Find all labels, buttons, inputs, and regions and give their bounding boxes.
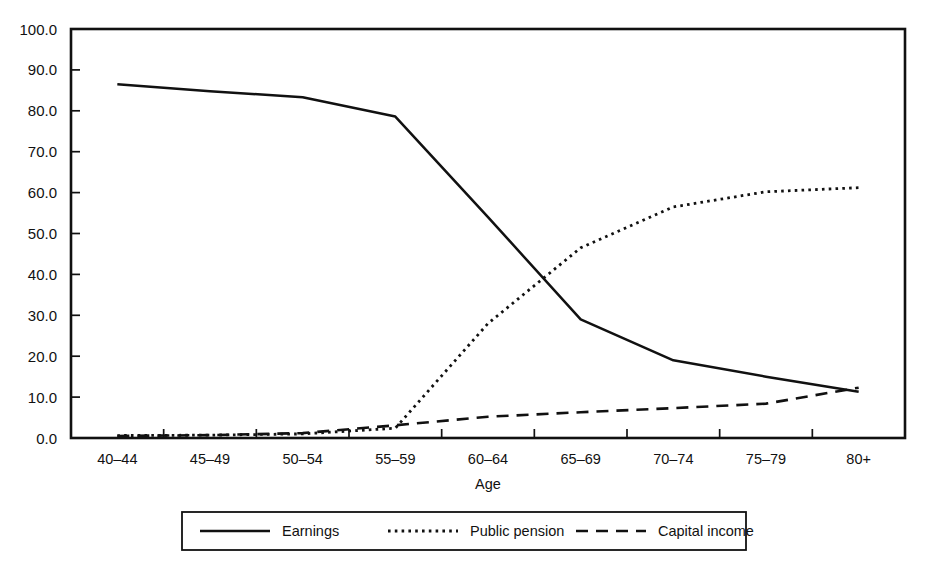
chart-figure: 0.010.020.030.040.050.060.070.080.090.01… (0, 0, 928, 570)
y-tick-label: 100.0 (19, 21, 57, 38)
x-tick-label: 70–74 (653, 451, 693, 467)
y-tick-label: 60.0 (28, 184, 57, 201)
x-tick-label: 45–49 (190, 451, 230, 467)
x-tick-label: 40–44 (97, 451, 137, 467)
x-tick-label: 60–64 (468, 451, 508, 467)
x-tick-label: 80+ (846, 451, 871, 467)
legend-label-public-pension: Public pension (470, 523, 564, 539)
y-tick-label: 70.0 (28, 143, 57, 160)
legend-label-capital-income: Capital income (658, 523, 754, 539)
y-tick-label: 90.0 (28, 61, 57, 78)
x-tick-label: 50–54 (283, 451, 323, 467)
legend-label-earnings: Earnings (282, 523, 339, 539)
y-tick-label: 0.0 (36, 430, 57, 447)
line-chart: 0.010.020.030.040.050.060.070.080.090.01… (0, 0, 928, 570)
y-tick-label: 40.0 (28, 266, 57, 283)
y-tick-label: 80.0 (28, 102, 57, 119)
y-tick-label: 50.0 (28, 225, 57, 242)
y-tick-label: 30.0 (28, 307, 57, 324)
y-tick-label: 10.0 (28, 389, 57, 406)
x-tick-label: 75–79 (746, 451, 786, 467)
x-tick-label: 65–69 (561, 451, 601, 467)
y-tick-label: 20.0 (28, 348, 57, 365)
x-axis-title: Age (475, 476, 501, 492)
chart-legend: EarningsPublic pensionCapital income (182, 512, 754, 550)
x-tick-label: 55–59 (375, 451, 415, 467)
